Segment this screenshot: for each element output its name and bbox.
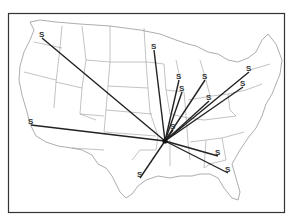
route-line bbox=[42, 38, 165, 141]
routes bbox=[31, 38, 249, 178]
site-label: S bbox=[28, 117, 34, 126]
route-line bbox=[165, 87, 243, 141]
site-label: S bbox=[240, 79, 246, 88]
site-label: S bbox=[202, 72, 208, 81]
route-line bbox=[140, 141, 165, 178]
site-label: S bbox=[170, 122, 176, 131]
route-line bbox=[165, 141, 228, 173]
route-line bbox=[31, 125, 165, 141]
map-frame bbox=[9, 14, 285, 213]
hub-marker bbox=[162, 138, 167, 143]
site-label: S bbox=[39, 30, 45, 39]
us-route-map: SSSSSSSSSSSSS bbox=[0, 0, 291, 222]
site-label: S bbox=[179, 84, 185, 93]
site-label: S bbox=[246, 64, 252, 73]
site-label: S bbox=[225, 165, 231, 174]
site-label: S bbox=[176, 72, 182, 81]
site-label: S bbox=[206, 93, 212, 102]
site-label: S bbox=[151, 42, 157, 51]
site-label: S bbox=[137, 170, 143, 179]
site-label: S bbox=[215, 148, 221, 157]
